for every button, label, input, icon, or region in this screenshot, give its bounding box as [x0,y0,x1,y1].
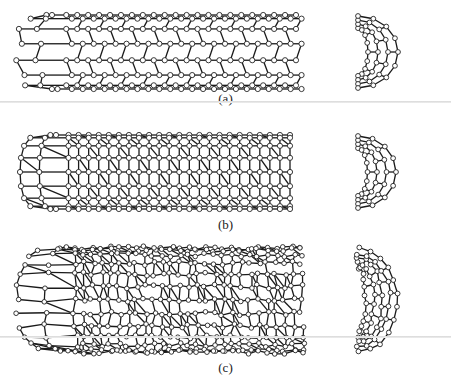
panel-label-b: (b) [0,218,451,232]
separator-line [0,336,451,338]
disordered-nanotube-side-view [16,245,306,355]
haeckelite-nanotube-side-view [18,132,294,212]
armchair-nanotube-end-cap [352,12,404,92]
disordered-nanotube-end-cap [352,245,404,355]
panel-label-a: (a) [0,92,451,106]
armchair-nanotube-side-view [14,12,300,92]
panel-label-c: (c) [0,361,451,375]
haeckelite-nanotube-end-cap [352,132,402,212]
separator-line [0,101,451,103]
